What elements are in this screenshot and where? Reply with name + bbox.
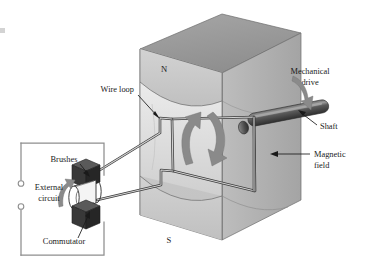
- commutator-label: Commutator: [43, 237, 86, 246]
- brushes-label: Brushes: [51, 155, 78, 164]
- external-circuit-label-line2: circuit: [38, 194, 60, 203]
- magnetic-field-label-line1: Magnetic: [314, 150, 346, 159]
- magnetic-field-label-line2: field: [314, 161, 330, 170]
- north-pole-label: N: [161, 64, 168, 74]
- generator-diagram: N S: [0, 0, 379, 270]
- commutator-assembly: [69, 159, 101, 229]
- diagram-canvas: N S: [0, 0, 379, 270]
- external-circuit-label-line1: External: [35, 183, 64, 192]
- wire-loop-label: Wire loop: [101, 85, 134, 94]
- circuit-terminal-upper[interactable]: [18, 181, 24, 187]
- shaft-label: Shaft: [320, 122, 338, 131]
- south-pole-label: S: [167, 235, 172, 245]
- circuit-terminal-lower[interactable]: [18, 204, 24, 210]
- brush-lower: [72, 200, 100, 229]
- scan-artifact: [0, 28, 5, 33]
- mechanical-drive-label-line1: Mechanical: [290, 67, 330, 76]
